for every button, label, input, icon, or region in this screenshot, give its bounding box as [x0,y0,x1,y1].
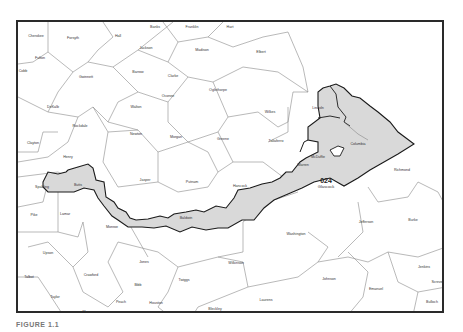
county-label: Warren [297,163,309,167]
county-label: Emanuel [369,287,383,291]
county-map [18,22,444,313]
district-number: 024 [320,177,332,184]
county-label: Hancock [233,184,247,188]
county-label: Greene [217,137,229,141]
county-label: Columbia [350,142,365,146]
county-label: Cobb [19,69,28,73]
county-label: Lincoln [312,106,323,110]
county-label: Jenkins [418,265,430,269]
county-label: Monroe [106,225,118,229]
county-label: Putnam [186,180,198,184]
county-label: Talbot [24,275,34,279]
county-label: Johnson [322,277,336,281]
county-label: Clayton [27,141,39,145]
county-label: Jasper [140,178,151,182]
county-label: Schley [19,311,30,313]
county-label: Jackson [139,46,152,50]
county-label: Screven [431,280,444,284]
county-label: Forsyth [67,36,79,40]
district-name: Glascock [318,184,334,189]
county-label: Henry [63,155,73,159]
county-label: Treutlen [324,312,337,313]
county-label: Pike [31,213,38,217]
county-label: Crawford [84,273,99,277]
county-label: Newton [130,132,142,136]
county-label: Peach [116,300,126,304]
county-label: Hall [115,34,121,38]
county-label: Macon [83,310,94,313]
county-label: Laurens [260,298,273,302]
county-label: Twiggs [178,278,189,282]
county-label: Elbert [256,50,265,54]
county-label: Barrow [132,70,143,74]
county-label: Bleckley [208,307,221,311]
county-label: Hart [227,25,234,29]
figure-caption: FIGURE 1.1 [16,321,59,328]
county-label: Wilkes [265,110,276,114]
county-label: Wilkinson [228,261,243,265]
county-label: Richmond [394,168,410,172]
county-label: Baldwin [180,216,193,220]
county-label: Jefferson [359,220,374,224]
county-label: Gwinnett [79,75,93,79]
county-label: Madison [195,48,209,52]
county-label: Bulloch [426,300,438,304]
county-label: Lamar [60,212,70,216]
county-label: Taylor [50,295,60,299]
county-label: Houston [149,301,162,305]
county-label: Washington [287,232,306,236]
county-label: Oconee [162,94,175,98]
county-label: DeKalb [47,105,59,109]
county-label: Morgan [170,135,182,139]
district-024-region [43,84,414,232]
county-label: Banks [150,25,160,29]
county-label: Taliaferro [269,139,284,143]
county-label: McDuffie [311,155,325,159]
county-label: Burke [408,218,417,222]
county-label: Cherokee [28,34,44,38]
county-label: Walton [130,105,141,109]
county-label: Upson [43,251,53,255]
county-label: Oglethorpe [209,88,227,92]
county-label: Spalding [35,185,49,189]
county-label: Fulton [35,56,45,60]
county-label: Bibb [134,283,141,287]
map-frame: CherokeeForsythHallBanksFranklinHartFult… [16,20,444,313]
county-label: Clarke [168,74,178,78]
county-label: Franklin [186,25,199,29]
county-label: Butts [74,183,82,187]
county-label: Rockdale [73,124,88,128]
county-label: Jones [139,260,149,264]
